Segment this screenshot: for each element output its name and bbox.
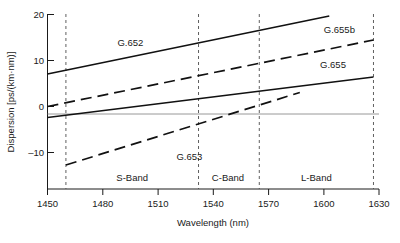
series-label-g655: G.655 [320, 59, 346, 70]
dispersion-chart: 20 10 0 –10 1450 1480 1510 1540 1570 160… [0, 0, 400, 243]
series-labels: G.652 G.655b G.655 G.653 [117, 24, 354, 162]
band-dividers [66, 14, 374, 189]
x-tick-label-1540: 1540 [203, 198, 224, 209]
x-tick-label-1630: 1630 [368, 198, 389, 209]
y-axis-title: Dispersion [ps/(km·nm)] [5, 52, 16, 153]
y-tick-labels: 20 10 0 –10 [28, 9, 44, 158]
band-label-l: L-Band [301, 172, 332, 183]
y-tick-label-neg10: –10 [28, 147, 44, 158]
x-tick-label-1600: 1600 [313, 198, 334, 209]
series-label-g655b: G.655b [324, 24, 355, 35]
series-label-g652: G.652 [117, 37, 143, 48]
series-curves [48, 16, 374, 165]
series-label-g653: G.653 [176, 151, 202, 162]
band-label-c: C-Band [212, 172, 244, 183]
x-tick-marks [48, 189, 380, 195]
chart-svg: 20 10 0 –10 1450 1480 1510 1540 1570 160… [0, 0, 400, 243]
band-labels: S-Band C-Band L-Band [116, 172, 331, 183]
x-tick-label-1510: 1510 [148, 198, 169, 209]
x-tick-label-1450: 1450 [37, 198, 58, 209]
x-tick-label-1570: 1570 [258, 198, 279, 209]
y-tick-marks [48, 15, 55, 153]
x-tick-labels: 1450 1480 1510 1540 1570 1600 1630 [37, 198, 390, 209]
band-label-s: S-Band [116, 172, 148, 183]
y-tick-label-0: 0 [39, 101, 44, 112]
x-tick-label-1480: 1480 [92, 198, 113, 209]
y-tick-label-10: 10 [33, 55, 44, 66]
x-axis-title: Wavelength (nm) [177, 217, 249, 228]
series-line-g655 [48, 77, 374, 118]
series-line-g652 [48, 16, 330, 74]
y-tick-label-20: 20 [33, 9, 44, 20]
